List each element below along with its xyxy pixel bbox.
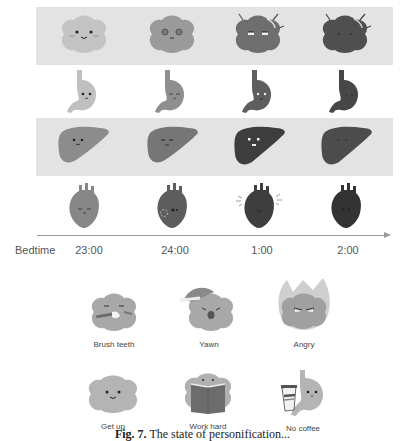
brain-icon	[316, 10, 374, 56]
axis-tick-label: 24:00	[161, 244, 189, 256]
stomach-icon	[327, 68, 361, 114]
liver-icon	[232, 124, 288, 168]
liver-icon	[56, 124, 112, 166]
mood-label: Brush teeth	[86, 340, 142, 349]
mood-no-coffee: No coffee	[278, 368, 328, 433]
axis-label: Bedtime	[15, 244, 55, 256]
heart-icon	[67, 181, 101, 229]
stomach-icon	[240, 68, 274, 114]
mood-work-hard: Work hard	[179, 372, 237, 431]
stomach-icon	[153, 68, 187, 114]
liver-icon	[145, 124, 201, 166]
mood-get-up: Get up	[83, 372, 143, 431]
axis-tick-label: 23:00	[75, 244, 103, 256]
brain-angry-icon	[275, 276, 333, 334]
stomach-coffee-icon	[278, 368, 328, 418]
axis-tick-label: 2:00	[337, 244, 358, 256]
mood-brush-teeth: Brush teeth	[86, 290, 142, 349]
mood-label: Angry	[275, 340, 333, 349]
figure-caption: Fig. 7. The state of personification...	[0, 427, 405, 441]
brain-icon	[56, 12, 112, 56]
brain-brushing-icon	[86, 290, 142, 334]
brain-book-icon	[179, 372, 237, 416]
brain-yawn-icon	[178, 280, 240, 334]
brain-icon	[144, 12, 200, 56]
liver-icon	[319, 124, 375, 168]
axis-arrow-icon	[384, 232, 391, 238]
figure-number: Fig. 7.	[115, 427, 147, 441]
heart-icon	[155, 181, 189, 229]
mood-yawn: Yawn	[178, 280, 240, 349]
brain-getup-icon	[83, 372, 143, 416]
heart-icon	[329, 181, 363, 229]
mood-angry: Angry	[275, 276, 333, 349]
brain-icon	[229, 10, 287, 56]
mood-label: Yawn	[178, 340, 240, 349]
figure-caption-text: The state of personification...	[149, 427, 290, 441]
timeline-axis	[37, 235, 385, 236]
stomach-icon	[65, 68, 99, 114]
axis-tick-label: 1:00	[251, 244, 272, 256]
heart-icon	[231, 178, 287, 230]
